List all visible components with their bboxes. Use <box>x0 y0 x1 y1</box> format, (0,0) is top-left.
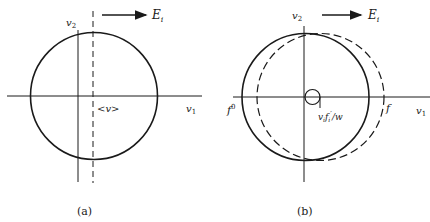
panel-a: Ei v2 <v> v1 (a) <box>7 8 202 218</box>
v2-axis-label: v2 <box>66 17 76 30</box>
v1-axis-label: v1 <box>416 105 426 118</box>
shift-label: vifi′/w <box>318 110 343 123</box>
f-label: f <box>385 102 392 115</box>
panel-a-caption: (a) <box>77 205 92 218</box>
f0-label: f0 <box>226 103 236 117</box>
field-label: Ei <box>151 8 164 24</box>
panel-b-caption: (b) <box>297 205 313 218</box>
panel-b: Ei v2 f0 f v1 vifi′/w (b) <box>226 8 430 218</box>
v2-axis-label: v2 <box>292 10 302 23</box>
mean-velocity-label: <v> <box>97 103 119 114</box>
field-label: Ei <box>367 8 380 24</box>
v1-axis-label: v1 <box>186 103 196 116</box>
velocity-distribution-diagram: Ei v2 <v> v1 (a) Ei v2 f0 f v1 vifi′/w (… <box>0 0 430 222</box>
